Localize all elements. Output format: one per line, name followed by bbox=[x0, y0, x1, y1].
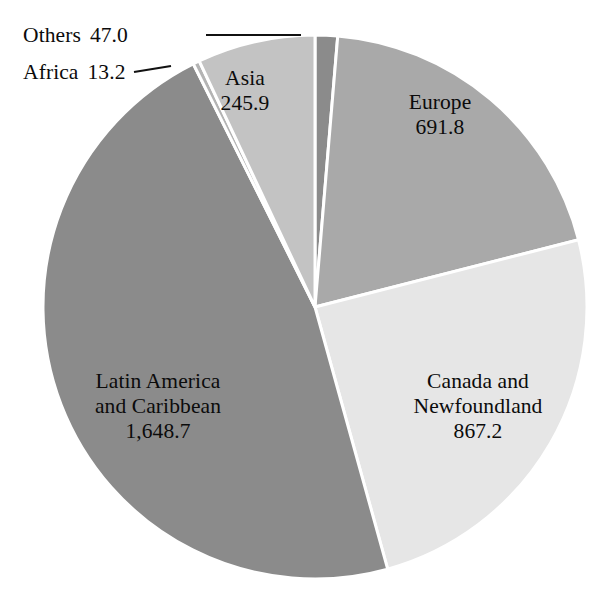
slice-label-asia-name: Asia bbox=[180, 66, 310, 91]
leader-line-africa bbox=[134, 66, 171, 72]
slice-label-europe-value: 691.8 bbox=[360, 115, 520, 140]
callout-label-others-name: Others bbox=[23, 23, 81, 47]
slice-label-canada-name-line2: Newfoundland bbox=[383, 394, 573, 419]
callout-label-others: Others47.0 bbox=[23, 23, 128, 48]
slice-label-europe: Europe 691.8 bbox=[360, 90, 520, 140]
slice-label-europe-name: Europe bbox=[360, 90, 520, 115]
pie-chart: Europe 691.8 Canada and Newfoundland 867… bbox=[0, 0, 599, 610]
callout-label-others-value: 47.0 bbox=[90, 23, 128, 47]
slice-label-canada: Canada and Newfoundland 867.2 bbox=[383, 369, 573, 444]
slice-label-canada-name-line1: Canada and bbox=[383, 369, 573, 394]
slice-label-latin-america-value: 1,648.7 bbox=[43, 419, 273, 444]
slice-label-latin-america-name-line2: and Caribbean bbox=[43, 394, 273, 419]
slice-label-latin-america: Latin America and Caribbean 1,648.7 bbox=[43, 369, 273, 444]
callout-label-africa-value: 13.2 bbox=[88, 60, 126, 84]
slice-label-asia: Asia 245.9 bbox=[180, 66, 310, 116]
slice-label-latin-america-name-line1: Latin America bbox=[43, 369, 273, 394]
callout-label-africa: Africa13.2 bbox=[23, 60, 126, 85]
slice-label-asia-value: 245.9 bbox=[180, 91, 310, 116]
callout-label-africa-name: Africa bbox=[23, 60, 79, 84]
slice-label-canada-value: 867.2 bbox=[383, 419, 573, 444]
